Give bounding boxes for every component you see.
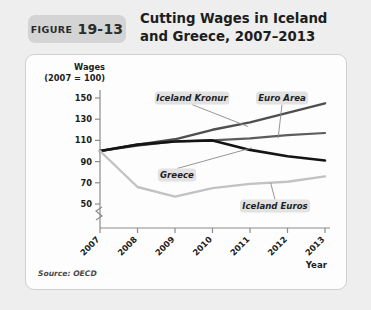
figure-title-line-2: and Greece, 2007–2013 [140, 28, 365, 46]
y-axis-tick-label: 110 [75, 135, 93, 145]
callout-label: Euro Area [258, 93, 306, 103]
x-axis-title: Year [305, 260, 328, 270]
figure-number-label: 19-13 [77, 21, 123, 37]
x-axis-tick-label: 2011 [228, 234, 252, 258]
callout-greece: Greece [158, 148, 252, 182]
callout-leader-line [278, 105, 282, 139]
series-line-greece [100, 140, 325, 160]
x-axis-tick-label: 2007 [78, 234, 102, 258]
figure-title-line-1: Cutting Wages in Iceland [140, 10, 365, 28]
x-axis-tick-label: 2012 [266, 234, 290, 258]
callout-leader-line [192, 105, 248, 127]
line-chart-svg: 5070901101301502007200820092010201120122… [25, 54, 345, 288]
x-axis-tick-label: 2010 [191, 234, 215, 258]
series-line-euro-area [100, 133, 325, 151]
figure-container: FIGURE 19-13 Cutting Wages in Iceland an… [0, 0, 371, 310]
y-axis-tick-label: 50 [80, 199, 92, 209]
callout-leader-line [271, 183, 275, 200]
y-axis-tick-label: 150 [75, 93, 93, 103]
figure-number-badge: FIGURE 19-13 [28, 15, 126, 43]
callout-label: Iceland Euros [242, 201, 307, 211]
figure-word-label: FIGURE [31, 24, 73, 35]
x-axis-tick-label: 2008 [116, 234, 140, 258]
y-axis-tick-label: 90 [80, 157, 92, 167]
callout-label: Iceland Kronur [156, 93, 228, 103]
figure-title: Cutting Wages in Iceland and Greece, 200… [140, 10, 365, 45]
callout-iceland-euros: Iceland Euros [240, 183, 310, 213]
callout-leader-line [177, 148, 252, 169]
x-axis-tick-label: 2013 [303, 234, 327, 258]
callout-label: Greece [160, 170, 194, 180]
series-line-iceland-kronur [100, 103, 325, 151]
y-axis-tick-label: 70 [80, 178, 92, 188]
x-axis-tick-label: 2009 [153, 234, 177, 258]
source-note: Source: OECD [38, 269, 97, 278]
y-axis-tick-label: 130 [75, 114, 93, 124]
callout-iceland-kronur: Iceland Kronur [155, 92, 248, 127]
